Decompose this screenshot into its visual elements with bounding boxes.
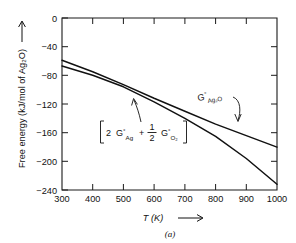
x-tick-label: 300 [54, 194, 69, 204]
annot-coefficient: 2 [106, 128, 111, 138]
x-tick-label: 1000 [267, 194, 287, 204]
y-tick-label: −200 [36, 157, 57, 167]
y-axis-right-ticks [271, 47, 277, 162]
y-tick-label: 0 [52, 14, 57, 24]
annot-g-o2-subscript: O₂ [171, 134, 179, 141]
svg-text:G°Ag: G°Ag [116, 127, 134, 141]
x-tick-label: 600 [146, 194, 161, 204]
annot-g-o2-symbol: G [161, 128, 168, 138]
figure-caption: (a) [165, 229, 176, 239]
y-axis-ticks [62, 18, 68, 190]
svg-text:G°Ag₂O: G°Ag₂O [197, 88, 223, 106]
y-tick-label: −40 [41, 42, 57, 52]
y-tick-label: −120 [36, 100, 57, 110]
y-tick-labels: 0 −40 −80 −120 −160 −200 −240 [36, 14, 57, 196]
annot-plus-sign: + [139, 128, 144, 138]
x-tick-label: 400 [85, 194, 100, 204]
svg-text:G°O₂: G°O₂ [161, 127, 178, 141]
x-axis-ticks [93, 184, 247, 190]
x-tick-labels: 300 400 500 600 700 800 900 1000 [54, 194, 287, 204]
y-axis-title-text: Free energy (kJ/mol of Ag₂O) [17, 49, 27, 168]
x-tick-label: 700 [177, 194, 192, 204]
annot-g-ag-subscript: Ag [126, 134, 134, 141]
annot-fraction-numerator: 1 [149, 122, 154, 132]
curve-g-ag2o [62, 60, 277, 147]
annot-g-ag-degree: ° [123, 127, 126, 134]
annot-g-subscript: Ag₂O [207, 95, 223, 104]
x-axis-title: T (K) [143, 213, 203, 223]
x-tick-label: 500 [116, 194, 131, 204]
y-axis-title: Free energy (kJ/mol of Ag₂O) [17, 21, 27, 168]
annotation-g-ag2o: G°Ag₂O [197, 88, 242, 122]
y-tick-label: −160 [36, 128, 57, 138]
figure-panel: 0 −40 −80 −120 −160 −200 −240 300 400 50… [0, 0, 296, 243]
curve-2gag-half-go2 [62, 66, 277, 184]
annot-g-o2-degree: ° [168, 127, 171, 134]
annotation-2gag-half-go2: 2 G°Ag + 1 2 G°O₂ [101, 99, 187, 144]
y-tick-label: −80 [41, 71, 57, 81]
x-axis-top-ticks [93, 18, 247, 24]
annot-g-ag-symbol: G [116, 128, 123, 138]
x-axis-title-text: T (K) [143, 213, 163, 223]
free-energy-chart: 0 −40 −80 −120 −160 −200 −240 300 400 50… [0, 0, 296, 243]
annot-fraction-denominator: 2 [149, 133, 154, 143]
x-tick-label: 800 [208, 194, 223, 204]
x-tick-label: 900 [239, 194, 254, 204]
